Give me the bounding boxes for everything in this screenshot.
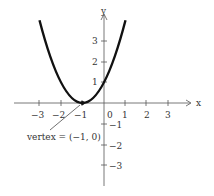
y-tick-label: 3 [92,36,98,46]
x-tick-label: 3 [165,110,171,120]
x-tick-label: −1 [74,110,87,120]
x-tick-label: 2 [144,110,150,120]
y-tick-label: 2 [92,57,98,67]
parabola-curve [40,20,126,103]
x-tick-label: 0 [107,110,113,120]
x-tick-label: 1 [122,110,128,120]
vertex-point [81,101,85,105]
x-tick-label: −3 [31,110,45,120]
y-tick-label: −1 [109,120,122,130]
vertex-label: vertex = (−1, 0) [26,132,101,142]
y-tick-label: −3 [109,161,123,171]
y-axis-label: y [100,6,107,16]
x-axis-label: x [196,98,201,108]
parabola-chart: x y −3 −2 −1 0 1 2 3 1 2 3 −1 −2 −3 vert… [0,0,214,196]
y-tick-label: −2 [109,141,122,151]
y-tick-label: 1 [92,77,98,87]
